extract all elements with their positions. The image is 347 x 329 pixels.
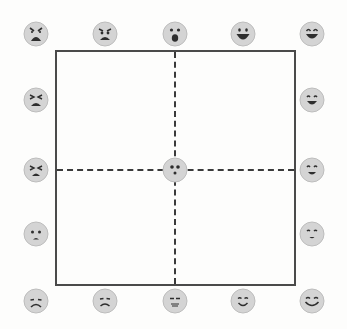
- frustrated-face-icon: [23, 87, 49, 113]
- sleepy-neutral-face-icon: [162, 288, 188, 314]
- furious-face-icon: [23, 21, 49, 47]
- sad-face-icon: [23, 288, 49, 314]
- stressed-face-icon: [23, 157, 49, 183]
- laughing-face-icon: [299, 21, 325, 47]
- glum-face-icon: [92, 288, 118, 314]
- happy-face-icon: [230, 21, 256, 47]
- pleased-face-icon: [299, 157, 325, 183]
- content-face-icon: [299, 221, 325, 247]
- joyful-face-icon: [299, 87, 325, 113]
- surprised-face-icon: [162, 21, 188, 47]
- relaxed-face-icon: [299, 288, 325, 314]
- upset-face-icon: [23, 221, 49, 247]
- neutral-center-face-icon: [162, 157, 188, 183]
- calm-face-icon: [230, 288, 256, 314]
- angry-face-icon: [92, 21, 118, 47]
